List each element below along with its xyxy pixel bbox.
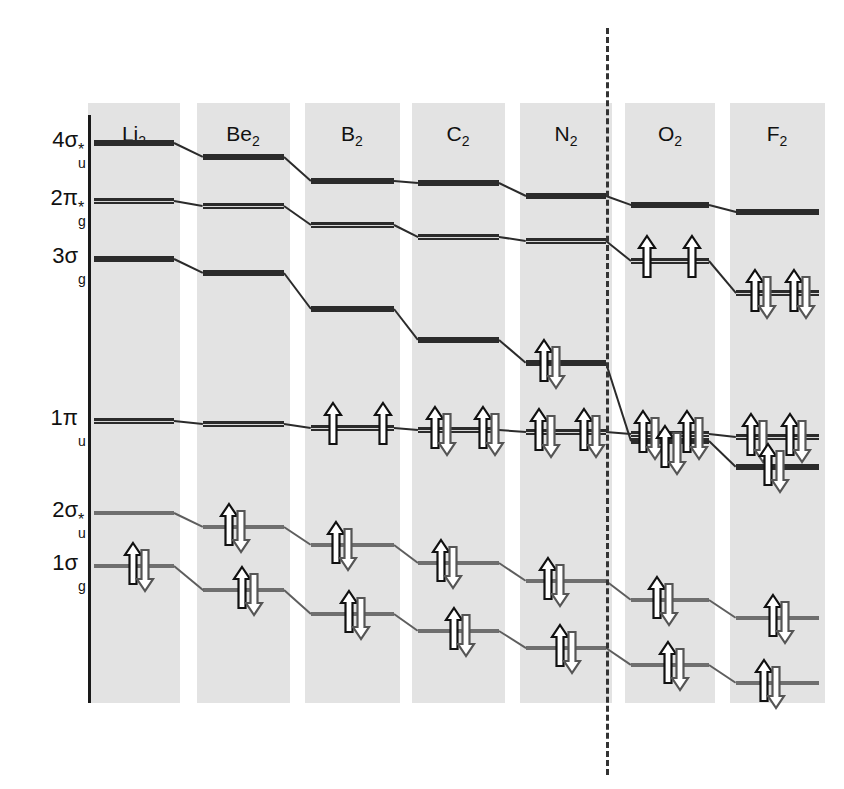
electron-arrow-down: [134, 546, 156, 592]
orbital-label-1sg: 1σg: [0, 550, 78, 576]
electron-arrow-down: [545, 343, 567, 389]
orbital-label-2su: 2σ*u: [0, 497, 78, 523]
electron-arrow-up: [681, 235, 703, 281]
molecule-symbol: F2: [767, 122, 788, 145]
column-header-C2: C2: [413, 122, 503, 149]
electron-arrow-down: [765, 663, 787, 709]
electron-arrow-down: [756, 273, 778, 319]
electron-arrow-down: [230, 507, 252, 553]
electron-arrow-down: [769, 447, 791, 493]
electron-arrow-down: [688, 414, 710, 460]
electron-arrow-down: [549, 561, 571, 607]
energy-level: [526, 193, 606, 199]
energy-level: [736, 209, 819, 215]
column-header-B2: B2: [307, 122, 397, 149]
electron-arrow-down: [795, 273, 817, 319]
molecule-symbol: B2: [341, 122, 363, 145]
column-header-F2: F2: [732, 122, 822, 149]
orbital-label-2pg: 2π*g: [0, 185, 78, 211]
electron-arrow-down: [561, 628, 583, 674]
energy-level: [94, 256, 174, 262]
energy-level: [311, 306, 394, 312]
column-header-O2: O2: [625, 122, 715, 149]
energy-level: [94, 198, 174, 204]
energy-level: [526, 238, 606, 244]
electron-arrow-down: [774, 598, 796, 644]
energy-axis-line: [88, 115, 91, 703]
energy-level: [203, 270, 284, 276]
molecule-symbol: O2: [658, 122, 682, 145]
energy-level: [631, 202, 709, 208]
electron-arrow-up: [636, 235, 658, 281]
electron-arrow-down: [791, 417, 813, 463]
energy-level: [418, 234, 499, 240]
energy-level: [418, 337, 499, 343]
electron-arrow-down: [585, 412, 607, 458]
electron-arrow-down: [350, 594, 372, 640]
orbital-label-3sg: 3σg: [0, 243, 78, 269]
electron-arrow-down: [540, 412, 562, 458]
electron-arrow-down: [666, 429, 688, 475]
molecule-symbol: Be2: [226, 122, 259, 145]
energy-level: [94, 418, 174, 424]
orbital-crossover-divider: [606, 28, 609, 775]
electron-arrow-down: [484, 410, 506, 456]
electron-arrow-down: [669, 645, 691, 691]
electron-arrow-down: [436, 410, 458, 456]
column-header-N2: N2: [521, 122, 611, 149]
energy-level: [203, 421, 284, 427]
energy-level: [418, 180, 499, 186]
energy-level: [311, 178, 394, 184]
column-header-Be2: Be2: [198, 122, 288, 149]
molecule-symbol: C2: [447, 122, 470, 145]
electron-arrow-up: [322, 402, 344, 448]
energy-level: [203, 203, 284, 209]
orbital-label-1pu: 1πu: [0, 405, 78, 431]
energy-level: [203, 154, 284, 160]
electron-arrow-down: [455, 611, 477, 657]
electron-arrow-down: [658, 580, 680, 626]
electron-arrow-up: [372, 402, 394, 448]
energy-level: [311, 222, 394, 228]
mo-correlation-diagram: 4σ*u2π*g3σg1πu2σ*u1σg Li2Be2B2C2N2O2F2: [0, 0, 844, 789]
energy-level: [94, 511, 174, 515]
column-band-Li2: [88, 103, 180, 703]
electron-arrow-down: [243, 570, 265, 616]
molecule-symbol: N2: [555, 122, 578, 145]
energy-level: [94, 140, 174, 146]
electron-arrow-down: [337, 525, 359, 571]
orbital-label-4su: 4σ*u: [0, 127, 78, 153]
electron-arrow-down: [442, 543, 464, 589]
